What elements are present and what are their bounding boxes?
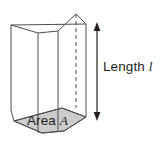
dimension-arrowhead-bottom [94,112,101,121]
length-symbol: l [149,59,153,74]
area-symbol: A [60,113,68,128]
prism-volume-figure: Length l Area A [0,0,168,152]
length-dimension-arrow [94,22,101,121]
length-label-text: Length [103,59,145,74]
area-label: Area A [27,114,68,128]
length-label: Length l [103,60,153,74]
area-label-text: Area [27,113,56,128]
prism-drawing [0,0,168,152]
dimension-arrowhead-top [94,22,101,31]
